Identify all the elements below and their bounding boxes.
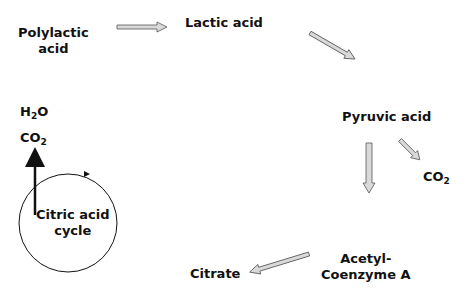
node-polylactic-acid: Polylacticacid	[18, 25, 89, 57]
node-co2-cycle: CO2	[20, 130, 47, 150]
arrow-lactic-to-pyruvic	[308, 29, 358, 64]
arrow-acetyl-to-citrate	[248, 249, 310, 277]
arrow-pyruvic-to-co2	[396, 136, 423, 163]
cycle-direction-icon	[84, 171, 90, 177]
arrow-pyruvic-to-acetyl	[363, 143, 375, 193]
diagram: Polylacticacid Lactic acid Pyruvic acid …	[0, 0, 476, 297]
arrow-polylactic-to-lactic	[117, 22, 167, 32]
node-lactic-acid: Lactic acid	[185, 15, 263, 31]
hollow-arrows	[117, 22, 423, 277]
node-citric-acid-cycle: Citric acidcycle	[36, 207, 110, 239]
node-co2-pyruvic: CO2	[423, 169, 450, 189]
node-acetyl-coa: Acetyl-Coenzyme A	[321, 251, 411, 283]
node-pyruvic-acid: Pyruvic acid	[342, 109, 431, 125]
node-citrate: Citrate	[190, 266, 240, 282]
node-h2o: H2O	[20, 104, 48, 124]
